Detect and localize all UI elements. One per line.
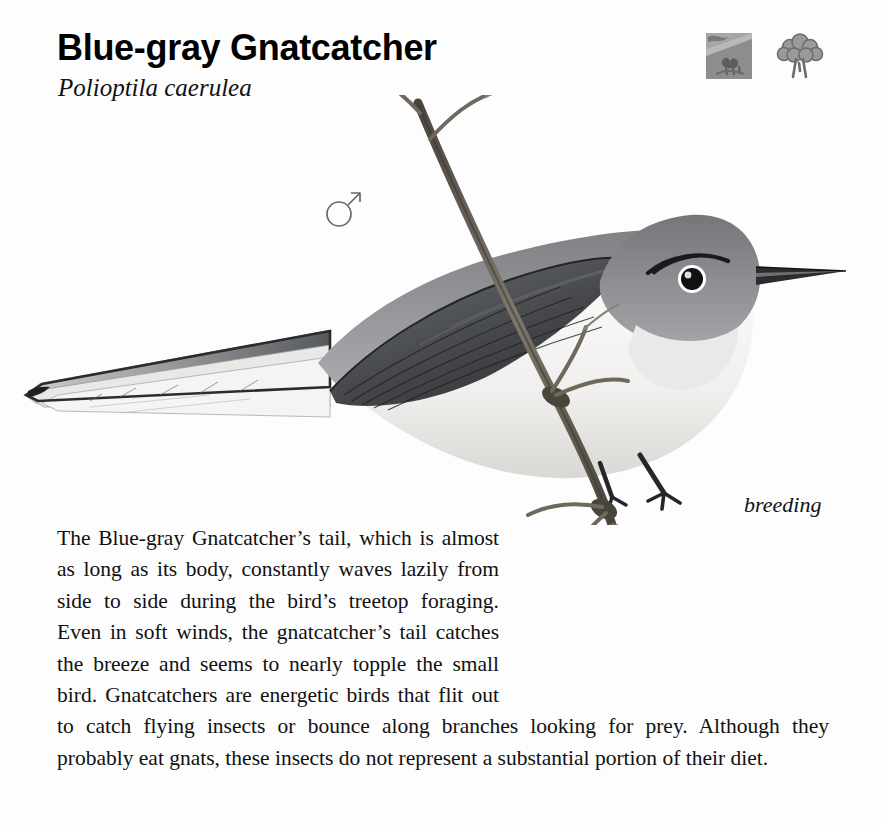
plumage-caption: breeding	[744, 492, 821, 518]
habitat-icon-group	[706, 33, 826, 83]
species-description: The Blue-gray Gnatcatcher’s tail, which …	[57, 523, 829, 774]
page-title: Blue-gray Gnatcatcher	[57, 27, 437, 69]
bird-illustration	[0, 95, 882, 525]
bird-head	[600, 215, 846, 390]
illustration-wrap-shim	[499, 523, 829, 711]
deciduous-tree-habitat-icon	[774, 33, 826, 83]
bird-tail	[24, 330, 330, 417]
hillside-scrub-habitat-icon	[706, 33, 752, 83]
field-guide-page: Blue-gray Gnatcatcher Polioptila caerule…	[0, 0, 882, 825]
